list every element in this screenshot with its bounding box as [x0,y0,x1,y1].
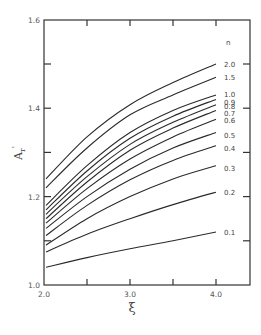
curve-label: 1.0 [224,91,235,99]
curve-label: 2.0 [224,61,235,69]
svg-text:Ar': Ar' [10,146,27,161]
x-axis-label: ξ [128,300,135,315]
data-curves [46,64,216,267]
y-axis-label: Ar' [10,146,27,161]
y-tick-label: 1.6 [28,16,40,25]
curve-label: 0.2 [224,189,235,197]
curve-label: 0.6 [224,117,236,125]
curve-label: 0.4 [224,145,236,153]
tick-labels: 2.03.04.01.01.21.41.6 [28,16,222,299]
y-tick-label: 1.0 [28,281,40,290]
y-tick-label: 1.4 [28,104,40,113]
curve-label: 0.1 [224,229,235,237]
chart: 2.03.04.01.01.21.41.6 2.01.51.00.90.80.7… [0,0,261,335]
x-tick-label: 2.0 [38,290,50,299]
y-tick-label: 1.2 [28,193,40,202]
legend-title: n [226,39,230,47]
curve-n-0.7 [46,110,216,218]
curve-n-1.5 [46,77,216,188]
curve-label: 1.5 [224,74,235,82]
curve-label: 0.3 [224,165,235,173]
curve-n-0.3 [46,166,216,246]
x-tick-label: 4.0 [210,290,222,299]
curve-n-0.1 [46,232,216,267]
curve-labels: 2.01.51.00.90.80.70.60.50.40.30.20.1 [224,61,236,237]
x-tick-label: 3.0 [124,290,136,299]
curve-label: 0.5 [224,132,235,140]
